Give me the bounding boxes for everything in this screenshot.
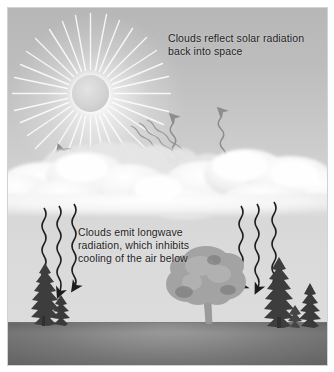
caption-clouds-reflect-solar-radiation: Clouds reflect solar radiation back into… — [168, 32, 327, 58]
trees-layer — [8, 8, 327, 365]
caption-clouds-emit-longwave-radiation: Clouds emit longwave radiation, which in… — [78, 226, 213, 265]
conifer-tree-right-mid — [299, 283, 321, 328]
illustration-artwork: Clouds reflect solar radiation back into… — [8, 8, 327, 365]
conifer-tree-right-tall — [264, 257, 294, 328]
figure-container: Clouds reflect solar radiation back into… — [0, 0, 334, 372]
